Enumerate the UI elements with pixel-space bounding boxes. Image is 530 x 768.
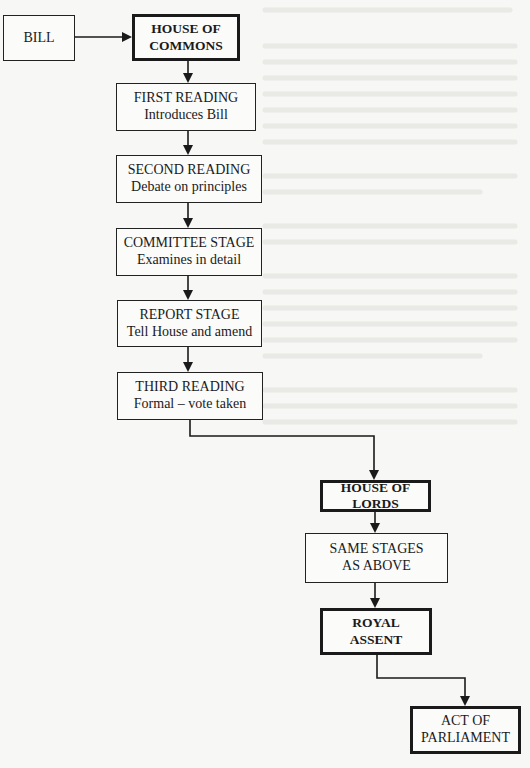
node-report-subtitle: Tell House and amend [127, 324, 252, 341]
node-bill: BILL [3, 15, 75, 61]
node-same-stages: SAME STAGES AS ABOVE [305, 533, 448, 583]
node-second-title: SECOND READING [128, 162, 251, 179]
node-third-reading: THIRD READING Formal – vote taken [117, 372, 263, 420]
node-assent-title: ROYAL [352, 615, 400, 631]
node-first-title: FIRST READING [134, 90, 238, 107]
node-committee-title: COMMITTEE STAGE [124, 235, 255, 252]
node-third-subtitle: Formal – vote taken [134, 396, 246, 413]
node-royal-assent: ROYAL ASSENT [320, 608, 432, 655]
node-house-of-lords: HOUSE OF LORDS [320, 480, 431, 512]
node-committee-subtitle: Examines in detail [137, 252, 241, 269]
node-second-subtitle: Debate on principles [131, 179, 247, 196]
node-first-reading: FIRST READING Introduces Bill [116, 83, 256, 131]
node-lords-title: HOUSE OF [341, 480, 410, 496]
node-same-title2: AS ABOVE [342, 558, 411, 575]
arrow-third-to-lords [190, 420, 374, 478]
node-report-title: REPORT STAGE [139, 307, 239, 324]
node-act-title2: PARLIAMENT [421, 730, 510, 747]
node-committee-stage: COMMITTEE STAGE Examines in detail [116, 228, 262, 276]
node-same-title: SAME STAGES [329, 541, 423, 558]
node-first-subtitle: Introduces Bill [144, 107, 228, 124]
arrow-assent-to-act [377, 655, 465, 704]
node-house-of-commons: HOUSE OF COMMONS [132, 14, 240, 61]
node-lords-title2: LORDS [352, 496, 399, 512]
node-act-title: ACT OF [441, 713, 490, 730]
node-assent-title2: ASSENT [350, 632, 403, 648]
connector-arrows [0, 0, 530, 768]
node-report-stage: REPORT STAGE Tell House and amend [117, 300, 262, 347]
node-second-reading: SECOND READING Debate on principles [116, 155, 262, 203]
node-act-of-parliament: ACT OF PARLIAMENT [410, 706, 521, 754]
node-bill-title: BILL [23, 30, 54, 47]
node-third-title: THIRD READING [135, 379, 244, 396]
node-commons-title2: COMMONS [149, 38, 223, 54]
node-commons-title: HOUSE OF [151, 21, 220, 37]
